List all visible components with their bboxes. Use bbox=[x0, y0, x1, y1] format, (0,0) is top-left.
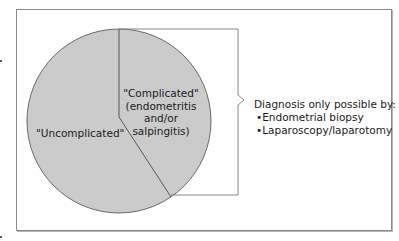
segment-label-complicated: "Complicated" (endometritis and/or salpi… bbox=[118, 87, 204, 137]
complicated-line-1: "Complicated" bbox=[118, 87, 204, 100]
callout-item-laparoscopy: •Laparoscopy/laparotomy bbox=[254, 124, 396, 137]
complicated-line-3: and/or salpingitis) bbox=[118, 112, 204, 137]
callout-item-biopsy: •Endometrial biopsy bbox=[254, 111, 396, 124]
segment-label-uncomplicated: "Uncomplicated" bbox=[36, 127, 124, 140]
callout-heading: Diagnosis only possible by: bbox=[254, 98, 396, 111]
diagnosis-callout: Diagnosis only possible by: •Endometrial… bbox=[254, 98, 396, 137]
complicated-line-2: (endometritis bbox=[118, 100, 204, 113]
